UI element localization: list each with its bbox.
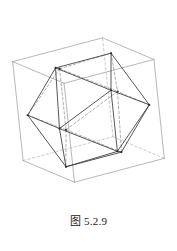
- edge-segment: [59, 90, 111, 128]
- edge-segment: [56, 68, 111, 90]
- edge-segment: [154, 59, 164, 158]
- edge-segment: [60, 69, 118, 92]
- edge-segment: [74, 158, 164, 182]
- vertex-dot: [54, 67, 56, 69]
- vertex-dot: [58, 128, 60, 130]
- icosahedron-hidden-edges: [28, 53, 150, 167]
- edge-segment: [66, 130, 121, 152]
- vertex-dot: [148, 104, 150, 106]
- edge-segment: [13, 38, 103, 62]
- vertex-dot: [120, 151, 122, 153]
- edge-segment: [111, 53, 117, 91]
- figure-caption: 图5.2.9: [0, 215, 177, 228]
- edge-segment: [56, 53, 112, 68]
- figure-drawing-area: [0, 0, 177, 215]
- edge-segment: [66, 152, 122, 167]
- icosahedron-visible-edges: [28, 53, 150, 167]
- edge-segment: [60, 69, 66, 130]
- polyhedron-diagram: [0, 0, 177, 215]
- vertex-dot: [116, 150, 118, 152]
- edge-segment: [66, 91, 118, 129]
- edge-segment: [23, 161, 74, 183]
- vertex-dot: [110, 52, 112, 54]
- edge-segment: [111, 90, 117, 151]
- edge-segment: [59, 129, 117, 152]
- vertex-dot: [65, 166, 67, 168]
- vertex-dot: [65, 129, 67, 131]
- caption-label: 图: [70, 215, 81, 227]
- edge-segment: [118, 91, 122, 152]
- edge-segment: [103, 38, 154, 60]
- figure-container: 图5.2.9: [0, 0, 177, 251]
- edge-segment: [28, 69, 60, 116]
- edge-segment: [28, 68, 56, 115]
- edge-segment: [56, 68, 60, 129]
- caption-number: 5.2.9: [84, 215, 107, 227]
- vertex-dot: [116, 90, 118, 92]
- vertex-dot: [59, 68, 61, 70]
- edge-segment: [59, 129, 65, 167]
- edge-segment: [64, 59, 154, 83]
- edge-segment: [117, 105, 149, 152]
- vertex-dot: [27, 114, 29, 116]
- icosahedron-vertices: [27, 52, 151, 168]
- edge-segment: [13, 62, 23, 161]
- vertex-dot: [110, 89, 112, 91]
- edge-segment: [121, 105, 149, 152]
